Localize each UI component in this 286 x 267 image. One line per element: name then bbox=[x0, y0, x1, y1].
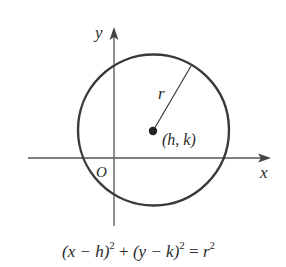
equation-equals: = bbox=[185, 242, 203, 261]
y-axis-label: y bbox=[93, 23, 103, 42]
center-label: (h, k) bbox=[162, 131, 196, 149]
equation-plus: + bbox=[115, 242, 133, 261]
equation-term-y: (y − k) bbox=[133, 242, 180, 261]
origin-label: O bbox=[96, 164, 107, 180]
x-axis-label: x bbox=[259, 163, 268, 182]
circle-equation: (x − h)2 + (y − k)2 = r2 bbox=[62, 239, 215, 261]
x-axis bbox=[28, 154, 271, 163]
diagram-canvas: y x O r (h, k) (x − h)2 + (y − k)2 = r2 bbox=[0, 0, 286, 267]
equation-term-x: (x − h) bbox=[62, 242, 110, 261]
radius-label: r bbox=[158, 84, 165, 103]
equation-exp-3: 2 bbox=[210, 239, 216, 251]
center-point bbox=[149, 127, 157, 135]
circle-equation-diagram: y x O r (h, k) (x − h)2 + (y − k)2 = r2 bbox=[0, 0, 286, 267]
